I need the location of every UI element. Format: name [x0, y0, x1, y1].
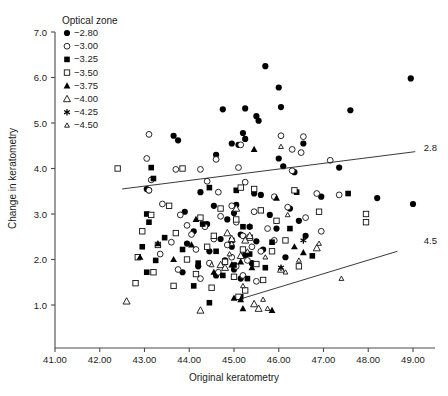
marker-open-square [242, 288, 247, 293]
marker-filled-square [269, 239, 275, 245]
marker-open-circle [189, 232, 195, 238]
marker-filled-circle [374, 195, 380, 201]
marker-open-square [234, 217, 239, 222]
y-tick-label: 4.0 [34, 163, 47, 174]
marker-filled-square [195, 260, 201, 266]
marker-small-open-triangle [265, 306, 270, 310]
x-tick-label: 46.00 [267, 354, 291, 365]
legend-entry-open-circle[interactable]: −3.00 [64, 40, 98, 51]
legend-entry-filled-square[interactable]: −3.25 [64, 53, 98, 64]
marker-small-open-triangle [227, 252, 232, 256]
marker-open-circle [251, 209, 257, 215]
legend-entry-filled-triangle[interactable]: −3.75 [64, 80, 98, 91]
marker-open-circle [303, 215, 309, 221]
marker-open-square [363, 219, 368, 224]
marker-open-triangle [197, 307, 204, 313]
marker-small-open-triangle [263, 255, 268, 259]
marker-open-square [166, 203, 171, 208]
marker-filled-square [144, 269, 150, 275]
marker-open-circle [238, 142, 244, 148]
marker-open-circle [236, 165, 242, 171]
marker-open-square [133, 280, 138, 285]
marker-open-square [254, 261, 259, 266]
y-tick-label: 6.0 [34, 72, 47, 83]
marker-open-circle [204, 178, 210, 184]
marker-filled-circle [220, 106, 226, 112]
marker-filled-square [162, 235, 168, 241]
marker-filled-square [200, 221, 206, 227]
marker-filled-circle [240, 130, 246, 136]
marker-open-circle [298, 150, 304, 156]
marker-filled-square [245, 276, 251, 282]
marker-open-circle [265, 226, 271, 232]
marker-filled-circle [276, 84, 282, 90]
marker-open-circle [198, 167, 204, 173]
marker-filled-circle [296, 218, 302, 224]
y-axis-title: Change in keratometry [7, 128, 18, 229]
marker-open-circle [64, 43, 70, 49]
marker-filled-circle [300, 140, 306, 146]
legend: Optical zone−2.80−3.00−3.25−3.50−3.75−4.… [62, 15, 118, 130]
marker-open-circle [258, 248, 264, 254]
marker-filled-circle [64, 30, 70, 36]
marker-filled-triangle [237, 258, 244, 264]
marker-open-square [184, 257, 189, 262]
marker-small-open-triangle [261, 297, 266, 301]
marker-open-square [296, 264, 301, 269]
marker-open-square [140, 229, 145, 234]
marker-small-open-triangle [241, 283, 246, 287]
marker-filled-square [180, 247, 186, 253]
series-open-triangle [123, 205, 320, 313]
legend-entry-label: −4.00 [74, 93, 98, 104]
legend-entry-open-triangle[interactable]: −4.00 [64, 93, 99, 104]
legend-entry-label: −3.00 [74, 40, 98, 51]
legend-entry-label: −2.80 [74, 27, 98, 38]
marker-open-square [240, 247, 245, 252]
marker-filled-circle [408, 75, 414, 81]
legend-entry-open-square[interactable]: −3.50 [64, 67, 98, 78]
chart-canvas: 1.02.03.04.05.06.07.041.0042.0043.0044.0… [0, 0, 448, 396]
marker-filled-square [151, 176, 157, 182]
marker-filled-square [207, 185, 213, 191]
marker-filled-circle [347, 107, 353, 113]
marker-open-circle [218, 213, 224, 219]
marker-filled-circle [267, 212, 273, 218]
marker-filled-circle [410, 201, 416, 207]
marker-open-square [173, 230, 178, 235]
marker-filled-triangle [240, 305, 247, 311]
marker-filled-circle [224, 216, 230, 222]
trend-label-4.5: 4.5 [424, 235, 437, 246]
marker-filled-circle [229, 140, 235, 146]
legend-entry-small-open-triangle[interactable]: −4.50 [65, 119, 98, 130]
marker-filled-square [220, 273, 226, 279]
marker-open-circle [144, 156, 150, 162]
marker-open-circle [245, 258, 251, 264]
legend-entry-filled-circle[interactable]: −2.80 [64, 27, 98, 38]
trend-line-2.8 [122, 152, 415, 189]
marker-open-square [180, 166, 185, 171]
marker-open-square [251, 186, 256, 191]
marker-filled-square [240, 224, 246, 230]
marker-open-circle [215, 189, 221, 195]
marker-open-square [64, 70, 69, 75]
marker-small-open-triangle [279, 144, 284, 148]
marker-filled-circle [262, 63, 268, 69]
marker-open-circle [184, 222, 190, 228]
marker-open-triangle [224, 229, 231, 235]
marker-open-circle [314, 191, 320, 197]
legend-entry-asterisk[interactable]: −4.25 [64, 106, 98, 117]
marker-open-square [258, 208, 263, 213]
axis-frame [55, 32, 435, 348]
y-tick-label: 2.0 [34, 254, 47, 265]
marker-filled-circle [256, 118, 262, 124]
x-tick-label: 45.00 [222, 354, 246, 365]
marker-filled-square [153, 258, 159, 264]
marker-open-triangle [123, 298, 130, 304]
marker-filled-circle [282, 254, 288, 260]
marker-filled-circle [276, 155, 282, 161]
marker-open-circle [168, 239, 174, 245]
marker-filled-circle [211, 203, 217, 209]
marker-small-open-triangle [65, 123, 70, 127]
marker-asterisk [64, 109, 70, 116]
marker-open-circle [253, 278, 259, 284]
